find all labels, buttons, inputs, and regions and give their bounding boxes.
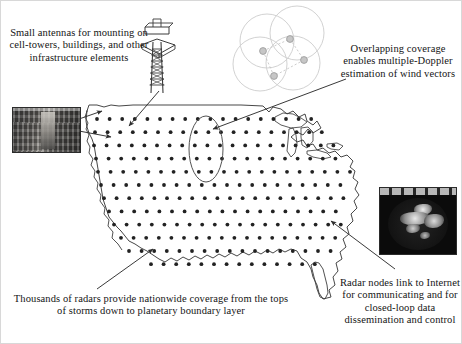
radar-node-dot (95, 117, 99, 121)
radar-node-dot (339, 183, 343, 187)
radar-node-dot (195, 157, 199, 161)
radar-node-dot (124, 183, 128, 187)
radar-node-dot (272, 117, 276, 121)
radar-node-dot (106, 130, 110, 134)
radar-node-dot (180, 144, 184, 148)
radar-node-dot (256, 144, 260, 148)
radar-node-dot (119, 157, 123, 161)
radar-node-dot (247, 170, 251, 174)
radar-node-dot (188, 223, 192, 227)
radar-node-dot (238, 223, 242, 227)
radar-node-dot (143, 144, 147, 148)
radar-node-dot (298, 170, 302, 174)
radar-node-dot (250, 262, 254, 266)
radar-node-dot (288, 262, 292, 266)
radar-node-dot (156, 130, 160, 134)
west-coast-detail (85, 111, 122, 250)
radar-node-dot (245, 157, 249, 161)
coverage-link (274, 60, 304, 76)
radar-node-dot (310, 170, 314, 174)
radar-node-dot (291, 196, 295, 200)
radar-node-dot (130, 144, 134, 148)
radar-node-dot (183, 210, 187, 214)
radar-node-dot (258, 157, 262, 161)
radar-node-dot (288, 183, 292, 187)
radar-node-dot (168, 144, 172, 148)
radar-node-dot (112, 183, 116, 187)
radar-node-dot (339, 223, 343, 227)
radar-node-dot (348, 170, 352, 174)
radar-node-dot (187, 262, 191, 266)
radar-node-dot (165, 249, 169, 253)
radar-node-dot (172, 170, 176, 174)
radar-node-dot (193, 144, 197, 148)
radar-node-dot (235, 170, 239, 174)
radar-node-dot (174, 262, 178, 266)
radar-node-dot (284, 117, 288, 121)
radar-node-dot (144, 236, 148, 240)
radar-node-dot (245, 236, 249, 240)
radar-node-dot (96, 170, 100, 174)
radar-node-dot (187, 183, 191, 187)
radar-node-dot (119, 236, 123, 240)
radar-node-dot (194, 130, 198, 134)
radar-node-dot (115, 196, 119, 200)
radar-node-dot (313, 262, 317, 266)
radar-node-dot (283, 157, 287, 161)
radar-node-dot (200, 183, 204, 187)
radar-node-dot (137, 223, 141, 227)
caption-small-antennas: Small antennas for mounting on cell-towe… (9, 27, 149, 64)
radar-node-dot (157, 157, 161, 161)
radar-node-dot (145, 157, 149, 161)
radar-node-dot (296, 236, 300, 240)
radar-node-dot (225, 262, 229, 266)
arrow-to-map-bottom (97, 249, 153, 289)
radar-node-dot (321, 236, 325, 240)
radar-node-dot (195, 210, 199, 214)
radar-node-dot (289, 223, 293, 227)
radar-node-dot (319, 144, 323, 148)
radar-node-dot (246, 210, 250, 214)
radar-node-dot (127, 196, 131, 200)
radar-node-dot (281, 144, 285, 148)
arrow-to-building-node (79, 111, 102, 119)
radar-node-dot (137, 183, 141, 187)
radar-node-dot (301, 223, 305, 227)
radar-node-dot (182, 236, 186, 240)
highlight-ellipse (189, 116, 223, 182)
radar-node-dot (279, 196, 283, 200)
radar-node-dot (228, 249, 232, 253)
radar-node-dot (120, 117, 124, 121)
radar-node-dot (270, 130, 274, 134)
coverage-circle (270, 6, 324, 60)
radar-node-dot (184, 170, 188, 174)
radar-node-dot (170, 236, 174, 240)
radar-node-dot (216, 196, 220, 200)
radar-node-dot (316, 249, 320, 253)
radar-node-dot (334, 210, 338, 214)
radar-node-dot (178, 196, 182, 200)
radar-node-dot (307, 130, 311, 134)
radar-node-dot (181, 130, 185, 134)
radar-node-dot (300, 262, 304, 266)
radar-node-dot (304, 249, 308, 253)
radar-node-dot (283, 236, 287, 240)
radar-node-dot (276, 183, 280, 187)
radar-node-dot (175, 183, 179, 187)
radar-node-dot (275, 262, 279, 266)
radar-node-dot (296, 157, 300, 161)
radar-node-dot (99, 183, 103, 187)
radar-titlebar (380, 188, 456, 195)
radar-node-dot (132, 210, 136, 214)
radar-node-dot (203, 249, 207, 253)
radar-node-dot (190, 249, 194, 253)
radar-node-dot (233, 210, 237, 214)
radar-node-dot (162, 262, 166, 266)
radar-node-dot (207, 130, 211, 134)
radar-node-dot (121, 170, 125, 174)
radar-node-dot (118, 130, 122, 134)
radar-node-dot (120, 210, 124, 214)
lake-ontario (327, 143, 343, 150)
radar-node-dot (278, 249, 282, 253)
radar-node-dot (314, 223, 318, 227)
